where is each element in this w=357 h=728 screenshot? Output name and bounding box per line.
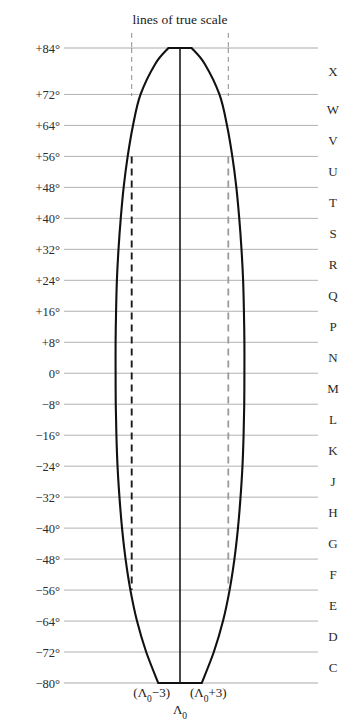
zone-letter-h: H — [328, 505, 337, 520]
zone-letter-d: D — [328, 629, 337, 644]
label-eastern-meridian: (Λ0+3) — [190, 685, 227, 704]
latitude-label: −40° — [35, 522, 60, 536]
zone-letter-w: W — [327, 102, 340, 117]
zone-letter-g: G — [328, 536, 337, 551]
latitude-label: +40° — [35, 212, 60, 226]
zone-letter-k: K — [328, 443, 338, 458]
figure-root: lines of true scale +84°+72°+64°+56°+48°… — [0, 0, 357, 728]
latitude-label: −16° — [35, 429, 60, 443]
latitude-label: +8° — [42, 336, 60, 350]
zone-letter-f: F — [329, 567, 336, 582]
latitude-label: +24° — [35, 274, 60, 288]
latitude-label: +48° — [35, 181, 60, 195]
latitude-label: 0° — [49, 367, 60, 381]
zone-letter-m: M — [327, 381, 339, 396]
latitude-label: +64° — [35, 119, 60, 133]
zone-letter-l: L — [329, 412, 337, 427]
zone-letter-t: T — [329, 195, 337, 210]
latitude-label: +16° — [35, 305, 60, 319]
zone-letter-p: P — [329, 319, 336, 334]
zone-letter-c: C — [329, 660, 338, 675]
zone-letter-q: Q — [328, 288, 338, 303]
latitude-label: −24° — [35, 460, 60, 474]
latitude-label: −72° — [35, 646, 60, 660]
figure-title: lines of true scale — [133, 12, 228, 27]
latitude-label: −8° — [42, 398, 60, 412]
latitude-label: +72° — [35, 88, 60, 102]
zone-letter-e: E — [329, 598, 337, 613]
zone-letter-n: N — [328, 350, 338, 365]
zone-letter-j: J — [330, 474, 335, 489]
latitude-label: −80° — [35, 677, 60, 691]
latitude-gridlines — [64, 48, 318, 683]
zone-letter-s: S — [329, 226, 336, 241]
label-western-meridian: (Λ0−3) — [133, 685, 170, 704]
latitude-label: −64° — [35, 615, 60, 629]
zone-letter-v: V — [328, 133, 338, 148]
latitude-label: +32° — [35, 243, 60, 257]
zone-letter-x: X — [328, 64, 338, 79]
utm-zone-diagram: lines of true scale +84°+72°+64°+56°+48°… — [0, 0, 357, 728]
latitude-label: −56° — [35, 584, 60, 598]
latitude-label: +56° — [35, 150, 60, 164]
zone-letter-group: XWVUTSRQPNMLKJHGFEDC — [327, 64, 340, 675]
zone-letter-r: R — [329, 257, 338, 272]
latitude-label: −48° — [35, 553, 60, 567]
latitude-label: +84° — [35, 42, 60, 56]
label-central-meridian: Λ0 — [173, 702, 187, 721]
latitude-label: −32° — [35, 491, 60, 505]
zone-letter-u: U — [328, 164, 338, 179]
latitude-label-group: +84°+72°+64°+56°+48°+40°+32°+24°+16°+8°0… — [35, 42, 60, 691]
